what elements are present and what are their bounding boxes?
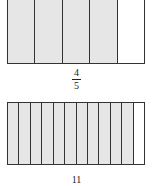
fraction-model-bottom: [7, 102, 145, 165]
numerator: 11: [72, 174, 82, 185]
shaded-part: [111, 103, 122, 164]
shaded-part: [8, 0, 35, 63]
shaded-part: [19, 103, 30, 164]
shaded-part: [65, 103, 76, 164]
fraction-label-top: 4 5: [0, 68, 153, 91]
shaded-part: [63, 0, 90, 63]
numerator: 4: [74, 67, 79, 78]
shaded-part: [31, 103, 42, 164]
shaded-part: [8, 103, 19, 164]
unshaded-part: [134, 103, 144, 164]
shaded-part: [90, 0, 117, 63]
denominator: 5: [74, 80, 79, 91]
shaded-part: [122, 103, 133, 164]
shaded-part: [35, 0, 62, 63]
shaded-part: [42, 103, 53, 164]
shaded-part: [99, 103, 110, 164]
fraction-label-bottom: 11: [0, 175, 153, 185]
shaded-part: [88, 103, 99, 164]
shaded-part: [54, 103, 65, 164]
fraction-model-top: [7, 0, 145, 64]
shaded-part: [77, 103, 88, 164]
unshaded-part: [118, 0, 144, 63]
